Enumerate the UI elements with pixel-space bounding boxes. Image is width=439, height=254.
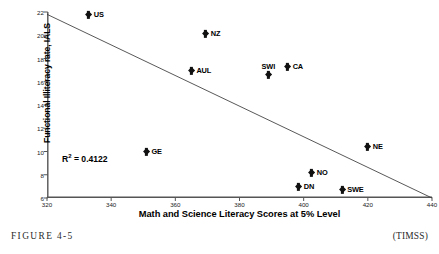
y-axis-title: Functional Illiteracy rate, IALS — [42, 0, 52, 168]
r-squared-annotation: R2 = 0.4122 — [62, 153, 108, 164]
scatter-plot: 6810121416182022 320340360380400420440 U… — [47, 12, 432, 198]
x-tick-label: 360 — [170, 201, 180, 208]
top-edge-artifact — [0, 0, 439, 3]
data-point-label: DN — [304, 182, 314, 191]
figure-source: (TIMSS) — [393, 231, 428, 241]
data-point-label: NZ — [211, 29, 221, 38]
x-tick-label: 380 — [234, 201, 244, 208]
x-axis-title: Math and Science Literacy Scores at 5% L… — [47, 209, 432, 219]
y-tick-label: 8 — [41, 171, 44, 178]
data-point-label: AUL — [196, 66, 211, 75]
data-point-label: CA — [293, 62, 303, 71]
data-point-label: NO — [317, 168, 328, 177]
x-tick-label: 440 — [427, 201, 437, 208]
data-point-label: SWI — [262, 62, 276, 71]
data-point-label: NE — [373, 142, 383, 151]
axis-and-trendline-layer — [47, 12, 432, 198]
x-tick-label: 320 — [42, 201, 52, 208]
x-tick-label: 420 — [363, 201, 373, 208]
data-point-label: SWE — [347, 185, 364, 194]
figure-caption: FIGURE 4-5 — [11, 231, 74, 241]
figure-container: 6810121416182022 320340360380400420440 U… — [0, 0, 439, 254]
x-tick-label: 340 — [106, 201, 116, 208]
trend-line — [47, 14, 432, 198]
data-point-label: GE — [151, 147, 161, 156]
r-squared-value: = 0.4122 — [72, 154, 108, 164]
x-tick-label: 400 — [298, 201, 308, 208]
data-point-label: US — [94, 10, 104, 19]
